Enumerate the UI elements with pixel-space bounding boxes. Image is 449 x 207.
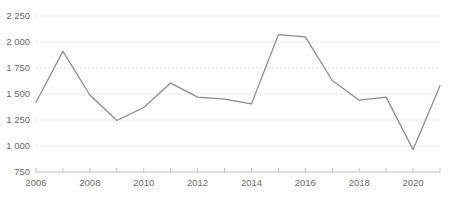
x-tick-label-2016: 2016 <box>295 177 316 188</box>
y-tick-label-2000: 2 000 <box>6 36 30 47</box>
x-tick-label-2006: 2006 <box>25 177 46 188</box>
x-tick-label-2008: 2008 <box>79 177 100 188</box>
y-tick-label-2250: 2 250 <box>6 10 30 21</box>
gridlines <box>36 16 440 146</box>
x-tick-label-2014: 2014 <box>241 177 262 188</box>
chart-canvas: 7501 0001 2501 5001 7502 0002 250 200620… <box>0 0 449 207</box>
y-tick-label-1500: 1 500 <box>6 88 30 99</box>
x-axis-tick-labels: 20062008201020122014201620182020 <box>25 177 423 188</box>
x-tick-label-2018: 2018 <box>349 177 370 188</box>
y-tick-label-1250: 1 250 <box>6 114 30 125</box>
series-line-0 <box>36 35 440 150</box>
y-axis-tick-labels: 7501 0001 2501 5001 7502 0002 250 <box>6 10 30 177</box>
x-axis <box>36 168 440 172</box>
data-series-group <box>36 35 440 150</box>
x-tick-label-2020: 2020 <box>402 177 423 188</box>
x-tick-label-2012: 2012 <box>187 177 208 188</box>
line-chart: 7501 0001 2501 5001 7502 0002 250 200620… <box>0 0 449 207</box>
y-tick-label-1750: 1 750 <box>6 62 30 73</box>
y-tick-label-750: 750 <box>14 166 30 177</box>
x-tick-label-2010: 2010 <box>133 177 154 188</box>
y-tick-label-1000: 1 000 <box>6 140 30 151</box>
